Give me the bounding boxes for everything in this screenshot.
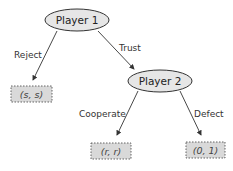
node-label: Player 1 <box>56 14 99 26</box>
payoff-label: (r, r) <box>101 146 121 157</box>
edge-label-defect: Defect <box>194 109 224 119</box>
node-player-2: Player 2 <box>128 70 192 92</box>
payoff-defect: (0, 1) <box>186 142 225 158</box>
payoff-cooperate: (r, r) <box>91 143 131 159</box>
payoff-label: (s, s) <box>20 89 43 100</box>
game-tree-diagram: Player 1 Player 2 Reject Trust Cooperate… <box>0 0 233 171</box>
payoff-label: (0, 1) <box>193 145 219 156</box>
payoff-reject: (s, s) <box>11 86 52 102</box>
edge-label-cooperate: Cooperate <box>79 109 126 119</box>
edge-label-trust: Trust <box>118 43 141 53</box>
edge-label-reject: Reject <box>14 50 42 60</box>
node-label: Player 2 <box>139 75 182 87</box>
node-player-1: Player 1 <box>45 9 109 31</box>
